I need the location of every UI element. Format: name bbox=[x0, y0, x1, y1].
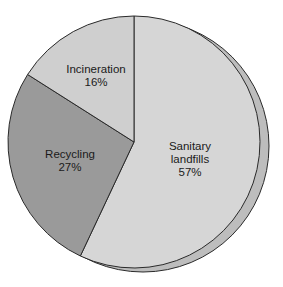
label-sanitary-name-1: Sanitary bbox=[169, 140, 211, 153]
label-recycling-value: 27% bbox=[45, 161, 95, 174]
label-recycling: Recycling 27% bbox=[45, 148, 95, 174]
label-recycling-name: Recycling bbox=[45, 148, 95, 161]
label-sanitary-value: 57% bbox=[169, 166, 211, 179]
label-sanitary-landfills: Sanitary landfills 57% bbox=[169, 140, 211, 179]
label-incineration-name: Incineration bbox=[66, 63, 125, 76]
label-sanitary-name-2: landfills bbox=[169, 153, 211, 166]
label-incineration: Incineration 16% bbox=[66, 63, 125, 89]
label-incineration-value: 16% bbox=[66, 76, 125, 89]
pie-chart bbox=[0, 0, 283, 287]
